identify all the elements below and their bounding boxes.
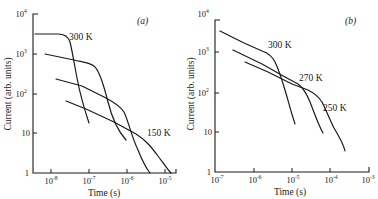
panel-a-annotation-300k: 300 K bbox=[69, 32, 93, 42]
panel-a-ytick-1: 1 bbox=[25, 168, 29, 178]
panel-a-ytick-1e4: 104 bbox=[15, 8, 27, 19]
panel-b-label: (b) bbox=[345, 16, 356, 27]
panel-b-xtick-1e-6: 10-6 bbox=[248, 174, 261, 185]
panel-a-curve-200k bbox=[56, 79, 150, 173]
panel-b-ytick-1e3: 103 bbox=[197, 46, 209, 57]
panel-b-axes bbox=[215, 20, 369, 172]
panel-b-y-ticks bbox=[215, 52, 219, 132]
panel-b-xtick-1e-7: 10-7 bbox=[210, 174, 223, 185]
panel-b-ylabel: Current (arb. units) bbox=[186, 57, 197, 130]
panel-b-annotation-300k: 300 K bbox=[268, 40, 292, 50]
panel-b-xtick-1e-5: 10-5 bbox=[286, 174, 299, 185]
panel-a-ytick-1e2: 102 bbox=[15, 88, 27, 99]
panel-a-xtick-1e-7: 10-7 bbox=[82, 175, 95, 186]
panel-a-label: (a) bbox=[137, 16, 148, 27]
panel-a-xlabel: Time (s) bbox=[88, 188, 120, 199]
panel-b-annotation-250k: 250 K bbox=[323, 103, 347, 113]
panel-a-curve-250k bbox=[45, 54, 126, 140]
panel-a-curve-300k bbox=[35, 34, 89, 123]
panel-a-xtick-1e-6: 10-6 bbox=[120, 175, 133, 186]
panel-b-xlabel: Time (s) bbox=[274, 187, 306, 198]
panel-b-ytick-10: 10 bbox=[204, 127, 213, 137]
panel-b-xtick-1e-4: 10-4 bbox=[324, 174, 337, 185]
panel-a-ytick-1e3: 103 bbox=[15, 48, 27, 59]
chart-figure: 1 10 102 103 104 10-8 10-7 10-6 10-5 Tim… bbox=[0, 0, 378, 199]
panel-a-annotation-150k: 150 K bbox=[147, 128, 171, 138]
panel-a-axes bbox=[33, 14, 176, 173]
panel-b-ytick-1e2: 102 bbox=[197, 87, 209, 98]
panel-b-ytick-1e4: 104 bbox=[197, 8, 209, 19]
panel-a-xtick-1e-8: 10-8 bbox=[44, 175, 57, 186]
panel-a-y-ticks bbox=[33, 54, 37, 133]
panel-a-ylabel: Current (arb. units) bbox=[3, 57, 14, 130]
panel-a-xtick-1e-5: 10-5 bbox=[158, 175, 171, 186]
panel-a-ytick-10: 10 bbox=[22, 128, 31, 138]
panel-b-annotation-270k: 270 K bbox=[299, 73, 323, 83]
panel-b: 1 10 102 103 104 10-7 10-6 10-5 10-4 10-… bbox=[186, 8, 375, 198]
panel-b-x-ticks bbox=[254, 168, 330, 172]
panel-a: 1 10 102 103 104 10-8 10-7 10-6 10-5 Tim… bbox=[3, 8, 176, 199]
panel-b-xtick-1e-3: 10-3 bbox=[361, 174, 374, 185]
